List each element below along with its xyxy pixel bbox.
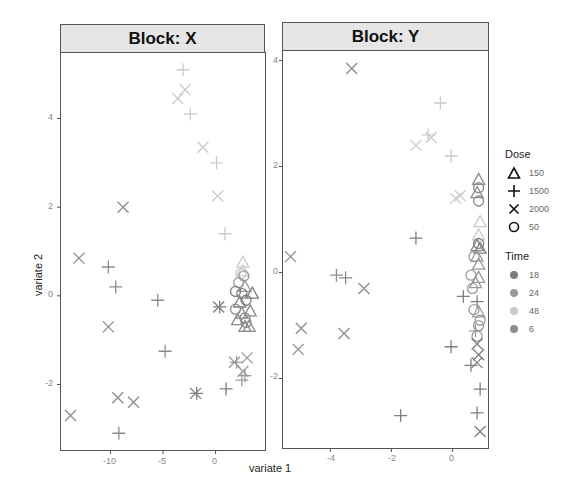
data-point xyxy=(474,383,487,396)
legend-title-dose: Dose xyxy=(505,148,549,160)
data-point xyxy=(475,426,486,437)
data-point xyxy=(212,191,223,202)
legend-item-time: 48 xyxy=(505,302,549,320)
data-point xyxy=(358,283,369,294)
data-point xyxy=(285,251,296,262)
data-point xyxy=(65,410,76,421)
data-point xyxy=(339,271,352,284)
data-point xyxy=(471,406,484,419)
data-point xyxy=(230,356,243,369)
data-point xyxy=(296,323,307,334)
data-point xyxy=(457,290,470,303)
legend-title-time: Time xyxy=(505,250,549,262)
legend-item-dose: 50 xyxy=(505,218,549,236)
data-point xyxy=(197,142,208,153)
data-point xyxy=(102,261,115,274)
triangle-icon xyxy=(505,166,523,180)
circle-icon xyxy=(505,220,523,234)
legend-label: 50 xyxy=(529,222,539,232)
dot-icon xyxy=(505,304,523,318)
data-point xyxy=(426,132,437,143)
data-point xyxy=(112,427,125,440)
legend-item-dose: 2000 xyxy=(505,200,549,218)
dot-icon xyxy=(505,286,523,300)
legend-label: 18 xyxy=(529,270,539,280)
legend-label: 24 xyxy=(529,288,539,298)
data-point xyxy=(445,340,458,353)
data-point xyxy=(410,140,421,151)
data-point xyxy=(434,96,447,109)
data-point xyxy=(219,227,232,240)
data-point xyxy=(190,387,203,400)
legend-label: 1500 xyxy=(529,186,549,196)
legend-item-time: 24 xyxy=(505,284,549,302)
data-point xyxy=(409,232,422,245)
data-point xyxy=(176,63,189,76)
data-point xyxy=(472,339,483,350)
data-point xyxy=(73,253,84,264)
data-point xyxy=(180,84,191,95)
data-point xyxy=(112,392,123,403)
data-point xyxy=(109,280,122,293)
dot-icon xyxy=(505,268,523,282)
legend-item-time: 6 xyxy=(505,320,549,338)
data-point xyxy=(455,190,466,201)
dot-icon xyxy=(505,322,523,336)
plus-icon xyxy=(505,184,523,198)
data-point xyxy=(339,328,350,339)
legend-label: 48 xyxy=(529,306,539,316)
data-point xyxy=(467,283,477,293)
data-point xyxy=(473,271,485,282)
data-point xyxy=(159,345,172,358)
legend-item-dose: 1500 xyxy=(505,182,549,200)
legend-label: 150 xyxy=(529,168,544,178)
data-point xyxy=(246,287,258,298)
legend-label: 6 xyxy=(529,324,534,334)
data-point xyxy=(118,202,129,213)
data-point xyxy=(103,321,114,332)
data-point xyxy=(394,409,407,422)
legend-label: 2000 xyxy=(529,204,549,214)
data-point xyxy=(220,382,233,395)
data-point xyxy=(184,108,197,121)
data-point xyxy=(473,349,484,360)
data-point xyxy=(472,357,483,368)
data-point xyxy=(213,300,226,313)
legend-item-dose: 150 xyxy=(505,164,549,182)
data-point xyxy=(172,93,183,104)
data-point xyxy=(151,294,164,307)
scatter-points xyxy=(0,0,575,494)
data-point xyxy=(346,63,357,74)
data-point xyxy=(128,397,139,408)
data-point xyxy=(242,352,253,363)
legend: Dose 150 1500 2000 50 Time 18 24 48 xyxy=(505,148,549,338)
cross-icon xyxy=(505,202,523,216)
data-point xyxy=(293,344,304,355)
data-point xyxy=(445,149,458,162)
data-point xyxy=(210,156,223,169)
data-point xyxy=(330,269,343,282)
legend-item-time: 18 xyxy=(505,266,549,284)
data-point xyxy=(472,331,482,341)
data-point xyxy=(474,216,486,227)
